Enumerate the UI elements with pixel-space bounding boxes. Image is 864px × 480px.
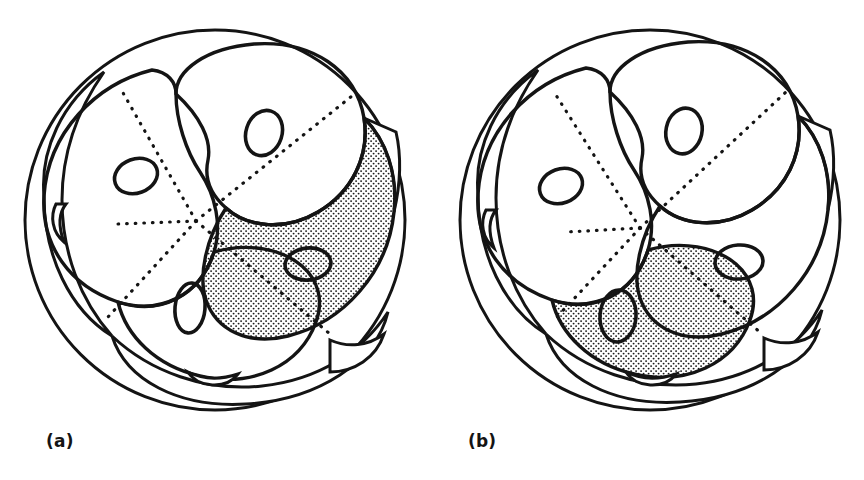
panel-b-embryo: (b) (460, 30, 840, 451)
panel-label-b: (b) (468, 431, 496, 451)
panel-a-embryo: (a) (25, 30, 405, 451)
embryo-figure: (a) (0, 0, 864, 480)
panel-label-a: (a) (46, 431, 74, 451)
caption-top-sliver (46, 470, 86, 480)
figure-canvas: (a) (0, 0, 864, 480)
